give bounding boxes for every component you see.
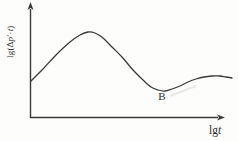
y-label-part: lg(Δ [5,41,15,58]
x-label-part: t [218,124,222,136]
x-label-part: lg [209,124,218,137]
point-label-b: B [158,90,165,102]
x-axis-label: lgt [209,124,222,137]
plot-curve [31,32,232,91]
figure: lg(Δp′·t) lgt B [0,0,238,141]
y-axis-label: lg(Δp′·t) [5,25,15,58]
scan-artifact [170,86,196,96]
plot-canvas: lg(Δp′·t) lgt B [0,0,238,141]
y-label-part: ) [5,25,15,28]
